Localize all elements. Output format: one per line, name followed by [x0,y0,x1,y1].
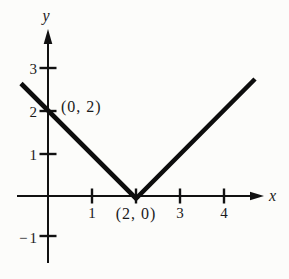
y-axis-arrow-icon [44,29,53,44]
graph-canvas: y x 3 2 1 −1 1 3 4 (0, 2) (2, 0) [0,0,289,279]
point-label-y-intercept: (0, 2) [61,98,102,116]
absolute-value-curve [21,79,255,199]
x-axis-arrow-icon [250,192,264,201]
y-axis-label: y [40,7,50,25]
y-tick-label-2: 2 [30,104,38,120]
x-tick-label-1: 1 [88,205,96,221]
y-tick-label-3: 3 [30,61,38,77]
x-axis-label: x [268,187,276,204]
x-tick-label-4: 4 [220,205,228,221]
point-label-vertex: (2, 0) [116,205,157,223]
y-tick-label-neg1: −1 [19,230,39,246]
y-tick-label-1: 1 [30,147,38,163]
math-figure: y x 3 2 1 −1 1 3 4 (0, 2) (2, 0) [0,0,289,279]
x-tick-label-3: 3 [176,205,184,221]
